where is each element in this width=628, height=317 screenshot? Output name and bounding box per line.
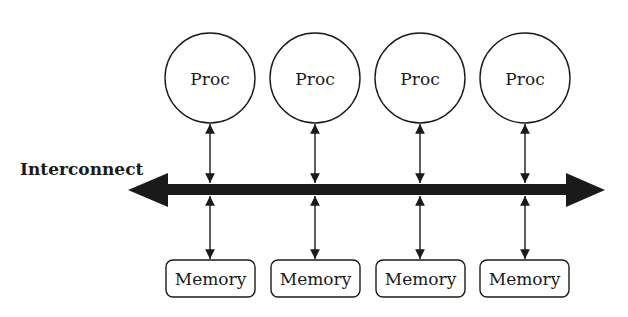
interconnect-label: Interconnect — [20, 159, 144, 179]
memory-label: Memory — [175, 269, 247, 289]
processor-node: Proc — [270, 33, 360, 123]
bus-right-arrowhead-icon — [566, 173, 605, 207]
processor-label: Proc — [505, 69, 544, 89]
interconnect-bus — [128, 173, 605, 207]
processor-node: Proc — [480, 33, 570, 123]
processor-label: Proc — [190, 69, 229, 89]
memory-label: Memory — [280, 269, 352, 289]
memory-label: Memory — [489, 269, 561, 289]
processor-node: Proc — [165, 33, 255, 123]
processor-node: Proc — [375, 33, 465, 123]
bus-memory-links — [210, 196, 525, 259]
shared-memory-diagram: Interconnect Proc Proc Proc Proc — [0, 0, 628, 317]
memory-node: Memory — [166, 260, 255, 297]
processor-label: Proc — [295, 69, 334, 89]
memory-node: Memory — [376, 260, 465, 297]
memory-label: Memory — [385, 269, 457, 289]
proc-bus-links — [210, 124, 525, 183]
memory-node: Memory — [271, 260, 360, 297]
memory-node: Memory — [480, 260, 569, 297]
processor-label: Proc — [400, 69, 439, 89]
